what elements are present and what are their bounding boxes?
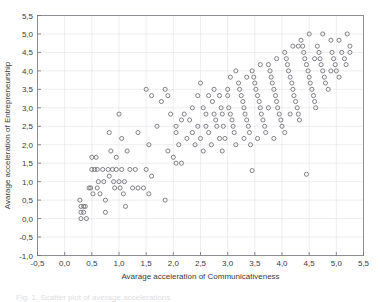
y-tick-label: 3,0 bbox=[22, 104, 34, 113]
y-tick-label: 1,5 bbox=[22, 159, 34, 168]
x-tick-label: 3,5 bbox=[249, 259, 261, 268]
x-tick-label: 5,0 bbox=[331, 259, 343, 268]
y-tick-label: 4,0 bbox=[22, 67, 34, 76]
y-axis-title: Avarage acceleration of Entrepreneurship bbox=[3, 61, 12, 209]
x-tick-label: 4,0 bbox=[276, 259, 288, 268]
y-tick-label: -0,5 bbox=[19, 233, 33, 242]
x-tick-label: 4,5 bbox=[304, 259, 316, 268]
y-tick-label: 3,5 bbox=[22, 85, 34, 94]
x-tick-label: 1,5 bbox=[141, 259, 153, 268]
figure-caption: Fig. 1. Scatter plot of average accelera… bbox=[0, 293, 380, 302]
x-tick-label: 2,5 bbox=[195, 259, 207, 268]
y-tick-label: -1,0 bbox=[19, 252, 33, 261]
y-tick-label: 1,0 bbox=[22, 178, 34, 187]
y-tick-label: 4,5 bbox=[22, 48, 34, 57]
figure-caption-text: Fig. 1. Scatter plot of average accelera… bbox=[0, 293, 380, 302]
y-tick-label: 2,0 bbox=[22, 141, 34, 150]
scatter-chart: -0,50,00,51,01,52,02,53,03,54,04,55,05,5… bbox=[0, 0, 380, 302]
x-tick-label: 2,0 bbox=[168, 259, 180, 268]
x-axis-title: Avarage acceleration of Communicativenes… bbox=[121, 272, 279, 281]
y-tick-label: 5,5 bbox=[22, 12, 34, 21]
x-tick-label: 0,0 bbox=[59, 259, 71, 268]
x-tick-label: 1,0 bbox=[113, 259, 125, 268]
y-tick-label: 2,5 bbox=[22, 122, 34, 131]
y-tick-label: 0,0 bbox=[22, 215, 34, 224]
y-tick-label: 0,5 bbox=[22, 196, 34, 205]
x-tick-label: 3,0 bbox=[222, 259, 234, 268]
x-tick-label: 5,5 bbox=[358, 259, 370, 268]
figure-scatter-plot: -0,50,00,51,01,52,02,53,03,54,04,55,05,5… bbox=[0, 0, 380, 302]
y-tick-label: 5,0 bbox=[22, 30, 34, 39]
x-tick-label: 0,5 bbox=[86, 259, 98, 268]
